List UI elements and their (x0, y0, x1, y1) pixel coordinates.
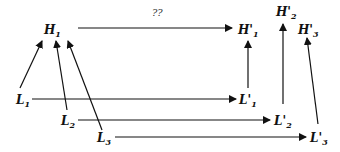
node-l2-prime: L'2 (273, 114, 292, 130)
node-l1: L1 (15, 93, 30, 109)
arrow-l3-to-h1 (68, 41, 102, 130)
node-l3-prime: L'3 (309, 131, 328, 147)
arrow-l2-to-h1 (56, 41, 67, 110)
unknown-mapping-label: ?? (152, 7, 163, 18)
node-l1-prime: L'1 (238, 93, 257, 109)
node-l2: L2 (60, 114, 75, 130)
node-l3: L3 (96, 131, 111, 147)
arrow-l3prime-to-h3prime (307, 38, 318, 124)
mapping-diagram: ?? H1 H'1 H'2 H'3 L1 L2 L3 L'1 L'2 L'3 (0, 0, 340, 152)
node-h1-prime: H'1 (237, 23, 259, 39)
node-h3-prime: H'3 (297, 23, 319, 39)
arrow-l1-to-h1 (20, 41, 42, 88)
node-h1: H1 (43, 23, 61, 39)
node-h2-prime: H'2 (275, 5, 297, 21)
